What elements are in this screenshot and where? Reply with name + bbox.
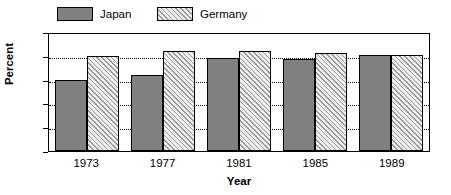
legend-item-germany: Germany bbox=[157, 5, 247, 23]
bar-germany-1981 bbox=[239, 51, 271, 151]
bar-germany-1989 bbox=[391, 55, 423, 151]
bar-japan-1973 bbox=[55, 80, 87, 151]
y-axis-title: Percent bbox=[3, 29, 15, 99]
bar-group bbox=[131, 34, 195, 151]
bar-germany-1973 bbox=[87, 56, 119, 151]
legend-label-germany: Germany bbox=[200, 7, 247, 21]
bar-japan-1977 bbox=[131, 75, 163, 151]
x-axis-tick-label: 1981 bbox=[203, 157, 275, 169]
hatched-swatch bbox=[157, 7, 193, 21]
bar-group bbox=[283, 34, 347, 151]
bar-japan-1985 bbox=[283, 59, 315, 151]
y-axis-tick bbox=[43, 152, 48, 153]
x-axis-tick-label: 1985 bbox=[279, 157, 351, 169]
bar-group bbox=[207, 34, 271, 151]
chart-legend: Japan Germany bbox=[0, 4, 451, 26]
legend-item-japan: Japan bbox=[57, 5, 131, 23]
x-axis-title: Year bbox=[48, 175, 430, 187]
x-axis-tick-label: 1989 bbox=[356, 157, 428, 169]
bar-group bbox=[359, 34, 423, 151]
legend-label-japan: Japan bbox=[100, 7, 131, 21]
x-axis-tick-label: 1973 bbox=[50, 157, 122, 169]
x-axis-tick-label: 1977 bbox=[127, 157, 199, 169]
bar-germany-1977 bbox=[163, 51, 195, 151]
bar-germany-1985 bbox=[315, 53, 347, 151]
x-axis-tick-labels: 19731977198119851989 bbox=[48, 157, 430, 169]
plot-area bbox=[48, 33, 430, 152]
bar-chart: Japan Germany Percent 020406080100 19731… bbox=[0, 0, 451, 195]
bar-japan-1981 bbox=[207, 58, 239, 151]
bar-groups bbox=[49, 34, 429, 151]
bar-japan-1989 bbox=[359, 55, 391, 151]
bar-group bbox=[55, 34, 119, 151]
solid-gray-swatch bbox=[57, 7, 93, 21]
